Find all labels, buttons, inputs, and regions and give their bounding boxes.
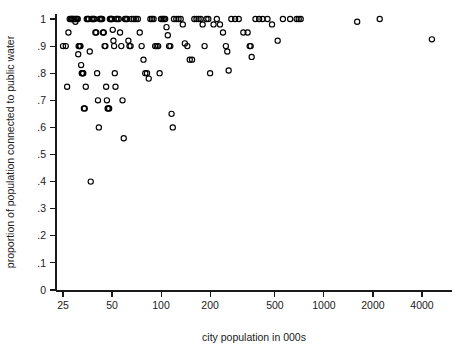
data-point <box>226 68 231 73</box>
data-point-markers <box>60 16 434 184</box>
data-point <box>214 16 219 21</box>
y-tick-label: 1 <box>40 13 46 25</box>
data-point <box>164 25 169 30</box>
data-point <box>288 16 293 21</box>
data-point <box>112 44 117 49</box>
data-point <box>275 38 280 43</box>
x-tick-label: 25 <box>57 299 69 311</box>
data-point <box>202 44 207 49</box>
y-tick-label: .1 <box>37 257 46 269</box>
data-point <box>83 84 88 89</box>
y-tick-label: .9 <box>37 40 46 52</box>
x-tick-label: 1000 <box>312 299 336 311</box>
y-tick-label: .5 <box>37 148 46 160</box>
data-point <box>429 37 434 42</box>
data-point <box>96 125 101 130</box>
x-tick-label: 100 <box>152 299 170 311</box>
y-tick-label: .2 <box>37 229 46 241</box>
x-axis-title: city population in 000s <box>202 331 306 343</box>
data-point <box>126 38 131 43</box>
data-point <box>169 111 174 116</box>
data-point <box>87 49 92 54</box>
data-point <box>170 125 175 130</box>
data-point <box>137 30 142 35</box>
data-point <box>95 71 100 76</box>
data-point <box>269 22 274 27</box>
data-point <box>111 38 116 43</box>
plot-canvas: 0.1.2.3.4.5.6.7.8.91 2550100200500100020… <box>0 0 457 359</box>
data-point <box>95 98 100 103</box>
data-point <box>121 136 126 141</box>
data-point <box>280 16 285 21</box>
data-point <box>113 84 118 89</box>
y-axis-title: proportion of population connected to pu… <box>4 35 16 268</box>
y-tick-label: .8 <box>37 67 46 79</box>
data-point <box>165 33 170 38</box>
data-point <box>112 71 117 76</box>
data-point <box>104 84 109 89</box>
y-tick-label: .6 <box>37 121 46 133</box>
x-tick-label: 4000 <box>410 299 434 311</box>
data-point <box>200 22 205 27</box>
data-point <box>180 22 185 27</box>
data-point <box>139 44 144 49</box>
data-point <box>377 16 382 21</box>
data-point <box>223 44 228 49</box>
data-point <box>117 30 122 35</box>
data-point <box>157 71 162 76</box>
data-point <box>141 57 146 62</box>
data-point <box>88 179 93 184</box>
data-point <box>217 22 222 27</box>
data-point <box>236 16 241 21</box>
data-point <box>110 27 115 32</box>
y-tick-label: .7 <box>37 94 46 106</box>
data-point <box>66 30 71 35</box>
data-point <box>220 30 225 35</box>
x-tick-label: 200 <box>201 299 219 311</box>
data-point <box>119 44 124 49</box>
x-tick-label: 2000 <box>361 299 385 311</box>
data-point <box>79 62 84 67</box>
x-tick-label: 50 <box>106 299 118 311</box>
data-point <box>104 98 109 103</box>
data-point <box>65 84 70 89</box>
y-tick-label: .4 <box>37 175 46 187</box>
data-point <box>146 76 151 81</box>
data-point <box>211 22 216 27</box>
x-tick-label: 500 <box>266 299 284 311</box>
y-tick-label: 0 <box>40 284 46 296</box>
x-axis-ticks: 2550100200500100020004000 <box>57 291 434 311</box>
data-point <box>225 49 230 54</box>
data-point <box>120 98 125 103</box>
y-tick-label: .3 <box>37 202 46 214</box>
y-axis-ticks: 0.1.2.3.4.5.6.7.8.91 <box>37 13 56 296</box>
data-point <box>76 52 81 57</box>
data-point <box>355 19 360 24</box>
scatter-plot-figure: 0.1.2.3.4.5.6.7.8.91 2550100200500100020… <box>0 0 457 359</box>
data-point <box>207 71 212 76</box>
data-point <box>249 54 254 59</box>
